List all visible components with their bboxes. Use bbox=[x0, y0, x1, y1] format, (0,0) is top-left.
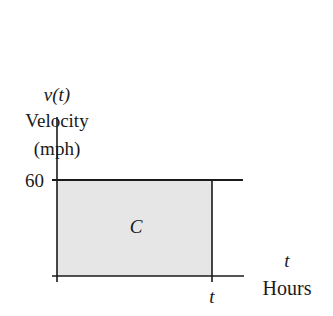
x-axis-title: Hours bbox=[263, 277, 312, 299]
velocity-chart: v(t) Velocity (mph) 60 C t t Hours bbox=[0, 0, 333, 316]
y-tick-60: 60 bbox=[25, 170, 44, 191]
y-axis-variable: v(t) bbox=[44, 84, 70, 106]
x-axis-variable: t bbox=[284, 250, 290, 271]
x-tick-t: t bbox=[209, 286, 215, 307]
y-axis-units: (mph) bbox=[34, 138, 80, 160]
y-axis-title: Velocity bbox=[25, 110, 89, 131]
region-label: C bbox=[130, 216, 143, 237]
